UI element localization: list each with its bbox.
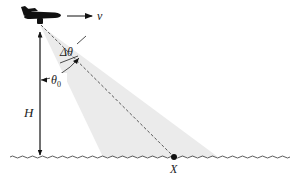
point-x-label: X [169, 162, 178, 176]
point-x-marker [171, 154, 177, 160]
height-label: H [23, 105, 34, 120]
airplane-icon [21, 6, 61, 24]
delta-theta-label: Δθ [59, 45, 73, 59]
velocity-label: v [97, 9, 103, 23]
diagram-canvas: H θ0 Δθ v X [0, 0, 302, 182]
